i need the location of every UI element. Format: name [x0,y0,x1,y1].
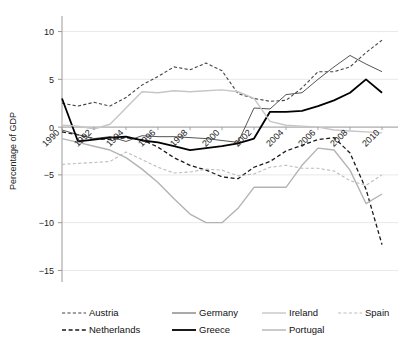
y-tick-label: 5 [49,75,54,85]
x-tick-label: 2000 [200,127,221,148]
x-tick-label: 1998 [168,127,189,148]
chart-canvas: 1050−5−10−15 199019921994199619982000200… [0,0,406,341]
y-tick-label: −15 [39,266,54,276]
y-axis-ticks: 1050−5−10−15 [39,27,62,276]
series-line-spain [62,152,382,185]
x-tick-label: 2006 [296,127,317,148]
axes [62,16,398,282]
y-tick-label: −5 [44,170,54,180]
y-tick-label: 10 [44,27,54,37]
legend-label-germany: Germany [199,307,238,318]
legend-label-ireland: Ireland [289,307,318,318]
y-axis-title: Percentage of GDP [8,112,18,190]
x-tick-label: 2002 [232,127,253,148]
series-line-ireland [62,90,382,133]
y-tick-label: −10 [39,218,54,228]
chart-legend: AustriaGermanyIrelandSpainNetherlandsGre… [62,307,389,335]
legend-label-netherlands: Netherlands [89,324,140,335]
x-tick-label: 2004 [264,127,285,148]
legend-label-austria: Austria [89,307,119,318]
series-line-austria [62,40,382,106]
series-line-portugal [62,139,382,223]
x-tick-label: 1990 [40,127,61,148]
legend-label-greece: Greece [199,324,230,335]
legend-label-portugal: Portugal [289,324,324,335]
y-axis-label: Percentage of GDP [8,112,18,190]
x-tick-label: 2010 [360,127,381,148]
legend-label-spain: Spain [365,307,389,318]
chart-figure: 1050−5−10−15 199019921994199619982000200… [0,0,406,341]
